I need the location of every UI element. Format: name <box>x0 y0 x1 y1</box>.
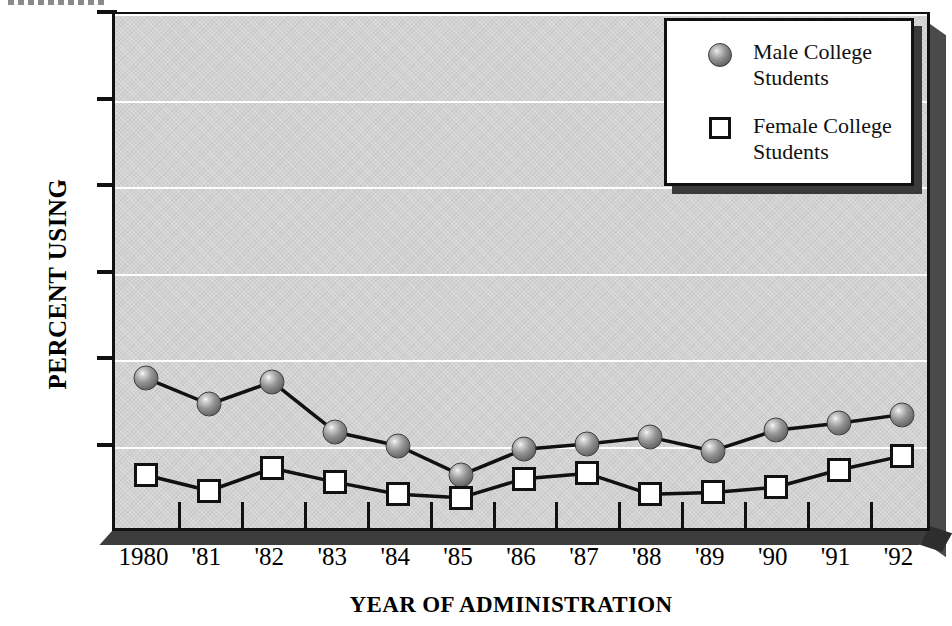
x-tick-label: '87 <box>569 543 599 571</box>
legend-label-female-line1: Female College <box>753 113 892 139</box>
data-point-male-92[interactable] <box>889 402 914 427</box>
data-point-female-90[interactable] <box>764 475 788 499</box>
data-point-male-89[interactable] <box>700 438 725 463</box>
data-point-female-82[interactable] <box>260 456 284 480</box>
data-point-male-87[interactable] <box>574 432 599 457</box>
legend-label-female-line2: Students <box>753 139 892 165</box>
data-point-male-86[interactable] <box>512 437 537 462</box>
data-point-male-81[interactable] <box>197 392 222 417</box>
x-tick-label: '85 <box>443 543 473 571</box>
x-tick-label: '84 <box>380 543 410 571</box>
data-point-female-81[interactable] <box>197 479 221 503</box>
data-point-male-88[interactable] <box>637 425 662 450</box>
data-point-female-91[interactable] <box>827 458 851 482</box>
x-tick-label: '90 <box>758 543 788 571</box>
data-point-male-84[interactable] <box>386 433 411 458</box>
x-tick-label: '88 <box>632 543 662 571</box>
data-point-male-85[interactable] <box>449 463 474 488</box>
data-point-male-91[interactable] <box>826 411 851 436</box>
legend-label-male-line2: Students <box>753 65 872 91</box>
data-point-female-86[interactable] <box>512 467 536 491</box>
data-point-male-83[interactable] <box>323 419 348 444</box>
data-point-female-1980[interactable] <box>134 463 158 487</box>
legend-marker-cell-female <box>687 113 753 139</box>
x-axis-title: YEAR OF ADMINISTRATION <box>0 592 952 618</box>
x-tick-label: '83 <box>317 543 347 571</box>
data-point-male-82[interactable] <box>260 369 285 394</box>
filled-circle-icon <box>708 43 732 67</box>
x-tick-label: '91 <box>821 543 851 571</box>
x-tick-label: '92 <box>884 543 914 571</box>
legend-marker-cell-male <box>687 39 753 67</box>
legend-label-male-line1: Male College <box>753 39 872 65</box>
x-tick-label: '89 <box>695 543 725 571</box>
legend-label-female: Female College Students <box>753 113 892 165</box>
x-tick-label: '82 <box>255 543 285 571</box>
legend: Male College Students Female College Stu… <box>664 18 914 186</box>
x-tick-label: '81 <box>192 543 222 571</box>
data-point-male-1980[interactable] <box>134 366 159 391</box>
chart-figure: PERCENT USING YEAR OF ADMINISTRATION 051… <box>0 0 952 626</box>
data-point-female-85[interactable] <box>449 486 473 510</box>
legend-item-male[interactable]: Male College Students <box>687 39 872 91</box>
data-point-female-92[interactable] <box>890 444 914 468</box>
data-point-female-83[interactable] <box>323 470 347 494</box>
legend-label-male: Male College Students <box>753 39 872 91</box>
data-point-male-90[interactable] <box>763 418 788 443</box>
data-point-female-84[interactable] <box>386 482 410 506</box>
scan-artifact-line <box>8 0 104 5</box>
open-square-icon <box>709 117 731 139</box>
data-point-female-88[interactable] <box>638 482 662 506</box>
x-tick-label: 1980 <box>118 543 168 571</box>
data-point-female-87[interactable] <box>575 461 599 485</box>
y-axis-title: PERCENT USING <box>44 134 72 434</box>
x-tick-label: '86 <box>506 543 536 571</box>
data-point-female-89[interactable] <box>701 480 725 504</box>
legend-item-female[interactable]: Female College Students <box>687 113 892 165</box>
